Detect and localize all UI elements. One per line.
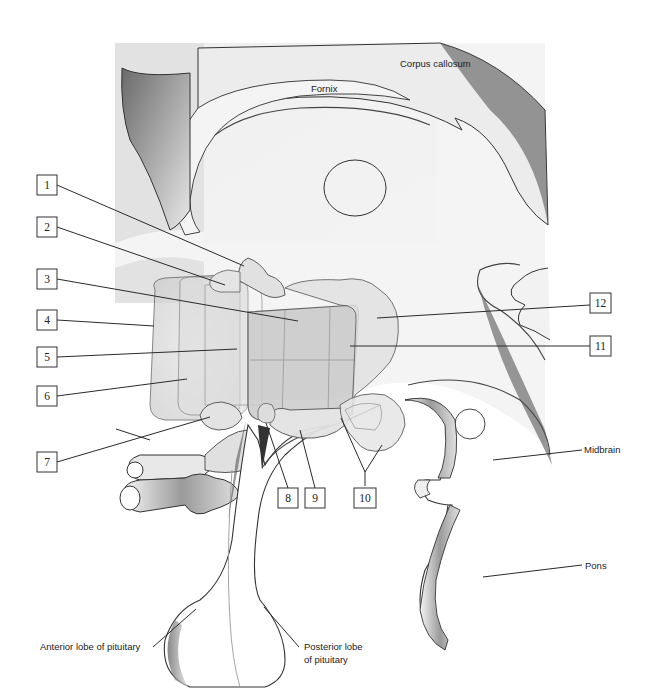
callout-6-number: 6 xyxy=(44,390,50,402)
optic-chiasm xyxy=(120,430,248,514)
callout-1[interactable]: 1 xyxy=(37,175,57,195)
callout-9[interactable]: 9 xyxy=(305,488,325,508)
interthalamic-adhesion xyxy=(324,160,386,216)
label-anterior-lobe-pituitary: Anterior lobe of pituitary xyxy=(40,641,141,652)
callout-3-number: 3 xyxy=(44,273,50,285)
callout-12-number: 12 xyxy=(595,297,607,309)
callout-8-number: 8 xyxy=(285,492,291,504)
callout-7[interactable]: 7 xyxy=(37,452,57,472)
callout-12[interactable]: 12 xyxy=(590,293,611,313)
callout-2[interactable]: 2 xyxy=(37,217,57,237)
callout-10[interactable]: 10 xyxy=(354,488,376,508)
label-midbrain: Midbrain xyxy=(584,444,620,455)
nucleus-10 xyxy=(340,394,405,452)
label-corpus-callosum: Corpus callosum xyxy=(400,58,471,69)
label-fornix: Fornix xyxy=(311,83,338,94)
nucleus-3-5-11-block xyxy=(248,305,359,420)
label-pons: Pons xyxy=(585,560,607,571)
label-posterior-lobe-pituitary-line1: Posterior lobe xyxy=(304,641,363,652)
callout-4[interactable]: 4 xyxy=(37,310,57,330)
callout-9-number: 9 xyxy=(312,492,318,504)
callout-3[interactable]: 3 xyxy=(37,269,57,289)
callout-6[interactable]: 6 xyxy=(37,386,57,406)
label-posterior-lobe-pituitary-line2: of pituitary xyxy=(304,654,348,665)
callout-5[interactable]: 5 xyxy=(37,347,57,367)
callout-10-number: 10 xyxy=(359,492,371,504)
hypothalamus-diagram: 1 2 3 4 5 6 7 8 9 10 11 12 Corpus callos… xyxy=(0,0,658,698)
callout-11[interactable]: 11 xyxy=(590,336,611,356)
callout-7-number: 7 xyxy=(44,456,50,468)
small-circle-structure xyxy=(455,409,485,439)
callout-11-number: 11 xyxy=(595,340,606,352)
callout-5-number: 5 xyxy=(44,351,50,363)
callout-8[interactable]: 8 xyxy=(278,488,298,508)
nucleus-8 xyxy=(258,403,275,423)
nucleus-9 xyxy=(270,408,350,438)
hypothalamic-nuclei xyxy=(150,258,405,451)
callout-4-number: 4 xyxy=(44,314,50,326)
callout-1-number: 1 xyxy=(44,179,50,191)
callout-2-number: 2 xyxy=(44,221,50,233)
